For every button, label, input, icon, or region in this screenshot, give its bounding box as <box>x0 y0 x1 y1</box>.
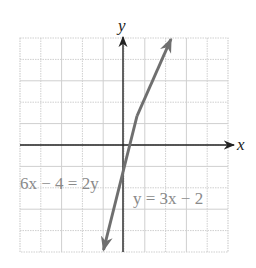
line-segment-lower <box>104 116 138 250</box>
equation-label-standard: 6x − 4 = 2y <box>20 174 99 193</box>
x-axis-label: x <box>236 135 245 154</box>
y-axis-label: y <box>116 16 126 35</box>
equation-label-slope-intercept: y = 3x − 2 <box>133 189 203 208</box>
coordinate-plane: y x 6x − 4 = 2y y = 3x − 2 <box>0 0 256 268</box>
